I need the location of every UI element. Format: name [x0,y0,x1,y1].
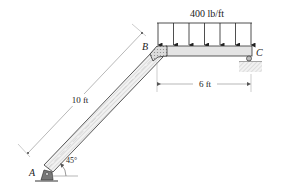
frame-diagram: 400 lb/ft 45° 10 ft [0,0,281,192]
distributed-load: 400 lb/ft [157,8,252,45]
point-label-c: C [256,47,263,58]
pin-support-a [35,170,58,181]
point-label-a: A [28,167,36,178]
ground-hatch-icon [239,62,262,72]
load-label: 400 lb/ft [190,8,224,19]
length-label-bc: 6 ft [199,79,212,89]
length-label-ab: 10 ft [72,95,89,105]
angle-label: 45° [66,156,77,165]
roller-support-c [239,56,262,72]
member-ab [44,51,163,172]
roller-icon [247,56,252,61]
member-bc [166,46,252,56]
dimension-bc: 6 ft [157,62,251,92]
point-label-b: B [142,41,148,52]
load-arrows [158,23,251,45]
